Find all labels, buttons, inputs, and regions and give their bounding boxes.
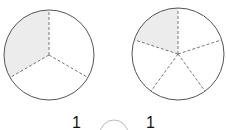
circle-fifths [132, 8, 224, 100]
fraction-diagram [0, 0, 226, 130]
shaded-sector [4, 10, 49, 78]
right-numerator: 1 [146, 115, 155, 130]
comparison-blank-circle[interactable] [100, 120, 128, 130]
circle-thirds [4, 10, 94, 100]
left-numerator: 1 [72, 115, 81, 130]
